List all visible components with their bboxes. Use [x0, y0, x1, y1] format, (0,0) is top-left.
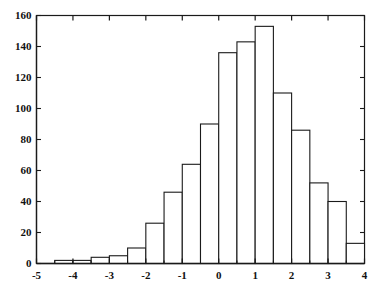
y-tick-label: 60 [21, 164, 33, 176]
y-tick-label: 80 [21, 133, 33, 145]
histogram-bar [328, 202, 346, 264]
histogram-bar [201, 124, 219, 264]
histogram-bar [219, 53, 237, 264]
histogram-figure: 020406080100120140160-5-4-3-2-101234 [0, 0, 382, 287]
x-tick-label: -3 [105, 269, 115, 281]
x-tick-label: -5 [32, 269, 42, 281]
histogram-bar [255, 26, 273, 263]
bars-group [55, 26, 365, 263]
y-tick-label: 20 [21, 226, 33, 238]
x-tick-label: 4 [362, 269, 368, 281]
histogram-bar [146, 223, 164, 263]
y-tick-label: 40 [21, 195, 33, 207]
y-tick-label: 0 [26, 257, 32, 269]
x-tick-label: -1 [178, 269, 187, 281]
x-tick-label: 0 [216, 269, 222, 281]
x-tick-label: 2 [289, 269, 295, 281]
y-tick-label: 140 [15, 40, 32, 52]
y-tick-label: 100 [15, 102, 32, 114]
x-tick-label: -4 [68, 269, 78, 281]
histogram-bar [310, 183, 328, 264]
histogram-bar [182, 164, 200, 263]
y-tick-label: 120 [15, 71, 32, 83]
histogram-bar [109, 256, 127, 264]
x-tick-label: -2 [141, 269, 151, 281]
histogram-bar [91, 257, 109, 263]
histogram-bar [164, 192, 182, 263]
histogram-plot: 020406080100120140160-5-4-3-2-101234 [0, 0, 382, 287]
y-tick-label: 160 [15, 9, 32, 21]
histogram-bar [273, 93, 291, 264]
x-tick-label: 3 [325, 269, 331, 281]
histogram-bar [346, 243, 364, 263]
x-tick-label: 1 [252, 269, 258, 281]
histogram-bar [292, 130, 310, 263]
histogram-bar [128, 248, 146, 264]
histogram-bar [237, 42, 255, 264]
